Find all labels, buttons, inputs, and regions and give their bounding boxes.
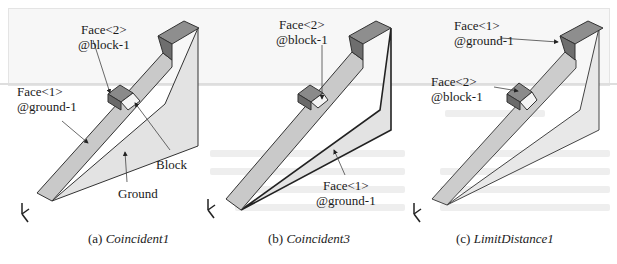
coordinate-triad-icon [22,203,29,222]
panel-a-face2-label: Face<2> @block-1 [78,22,130,52]
panel-c-face2-label: Face<2> @block-1 [431,74,483,104]
panel-a-ground-label: Ground [118,186,158,201]
coordinate-triad-icon [208,199,215,218]
panel-c-model [414,21,603,222]
panel-b-face1-label: Face<1> @ground-1 [316,178,376,208]
panel-b-face2-label: Face<2> @block-1 [276,17,328,47]
panel-a-block-label: Block [156,157,187,172]
panel-a-face1-label: Face<1> @ground-1 [17,84,77,114]
panel-c-caption: (c) LimitDistance1 [456,231,554,247]
panel-a-caption: (a) Coincident1 [88,231,169,247]
panel-b-caption: (b) Coincident3 [268,231,350,247]
coordinate-triad-icon [414,203,421,222]
panel-c-face1-label: Face<1> @ground-1 [454,18,514,48]
